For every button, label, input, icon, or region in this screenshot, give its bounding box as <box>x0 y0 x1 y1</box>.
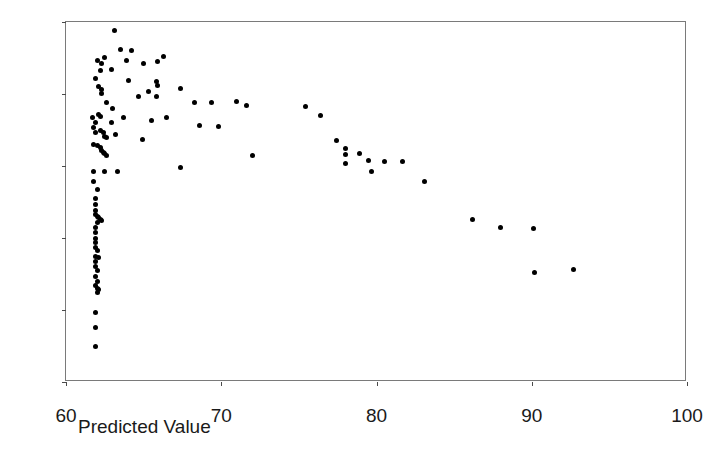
data-point <box>93 76 98 81</box>
x-tick-mark <box>221 382 222 386</box>
data-point <box>95 268 100 273</box>
data-point <box>197 123 202 128</box>
data-point <box>104 100 109 105</box>
data-point <box>366 158 371 163</box>
data-point <box>91 125 96 130</box>
data-point <box>303 104 308 109</box>
data-point <box>93 310 98 315</box>
x-tick-mark <box>66 382 67 386</box>
x-tick-label: 100 <box>671 406 703 425</box>
data-point <box>121 115 126 120</box>
data-point <box>112 28 117 33</box>
data-point <box>93 230 98 235</box>
plot-area: 210-1-2-3 60708090100 <box>65 21 686 381</box>
data-point <box>129 48 134 53</box>
data-point <box>343 146 348 151</box>
data-point <box>140 137 145 142</box>
data-point <box>216 124 221 129</box>
x-tick-mark <box>687 382 688 386</box>
data-point <box>571 267 576 272</box>
data-point <box>155 83 160 88</box>
data-point <box>126 78 131 83</box>
data-point <box>93 202 98 207</box>
data-point <box>149 118 154 123</box>
data-points-layer <box>66 22 685 380</box>
x-tick-label: 90 <box>521 406 542 425</box>
data-point <box>109 67 114 72</box>
data-point <box>99 91 104 96</box>
data-point <box>250 153 255 158</box>
data-point <box>93 130 98 135</box>
data-point <box>209 100 214 105</box>
data-point <box>382 159 387 164</box>
data-point <box>95 290 100 295</box>
data-point <box>91 179 96 184</box>
data-point <box>93 196 98 201</box>
data-point <box>95 248 100 253</box>
data-point <box>93 344 98 349</box>
data-point <box>400 159 405 164</box>
data-point <box>234 99 239 104</box>
x-tick-mark <box>532 382 533 386</box>
data-point <box>113 132 118 137</box>
data-point <box>161 54 166 59</box>
data-point <box>95 187 100 192</box>
data-point <box>93 325 98 330</box>
data-point <box>178 165 183 170</box>
data-point <box>357 151 362 156</box>
data-point <box>99 218 104 223</box>
x-tick-label: 60 <box>55 406 76 425</box>
data-point <box>99 61 104 66</box>
x-tick-label: 80 <box>366 406 387 425</box>
data-point <box>98 68 103 73</box>
data-point <box>531 226 536 231</box>
scatter-plot-figure: Studentized Residual Predicted Value 210… <box>0 0 712 455</box>
data-point <box>93 274 98 279</box>
data-point <box>90 115 95 120</box>
data-point <box>109 120 114 125</box>
data-point <box>244 103 249 108</box>
data-point <box>318 113 323 118</box>
data-point <box>115 169 120 174</box>
data-point <box>146 89 151 94</box>
data-point <box>422 179 427 184</box>
data-point <box>343 152 348 157</box>
data-point <box>192 100 197 105</box>
data-point <box>334 138 339 143</box>
data-point <box>104 135 109 140</box>
data-point <box>532 270 537 275</box>
x-tick-label: 70 <box>211 406 232 425</box>
data-point <box>164 115 169 120</box>
data-point <box>154 94 159 99</box>
data-point <box>91 169 96 174</box>
data-point <box>470 217 475 222</box>
data-point <box>102 55 107 60</box>
x-axis-title: Predicted Value <box>78 416 211 438</box>
y-axis-title: Studentized Residual <box>0 93 4 273</box>
data-point <box>155 59 160 64</box>
data-point <box>104 153 109 158</box>
data-point <box>369 169 374 174</box>
x-tick-mark <box>377 382 378 386</box>
data-point <box>136 94 141 99</box>
data-point <box>102 169 107 174</box>
data-point <box>98 114 103 119</box>
data-point <box>178 86 183 91</box>
data-point <box>110 106 115 111</box>
data-point <box>498 225 503 230</box>
data-point <box>141 61 146 66</box>
data-point <box>343 161 348 166</box>
data-point <box>124 58 129 63</box>
data-point <box>118 47 123 52</box>
